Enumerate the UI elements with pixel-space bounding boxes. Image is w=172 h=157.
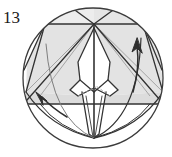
step-number-label: 13: [3, 9, 20, 26]
origami-diagram-svg: [0, 0, 172, 157]
origami-step-figure: 13: [0, 0, 172, 157]
upper-right-arc-sliver: [94, 8, 143, 24]
